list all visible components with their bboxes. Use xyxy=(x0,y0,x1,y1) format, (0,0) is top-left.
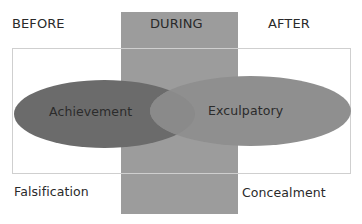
phase-label-during: DURING xyxy=(150,16,203,31)
phase-label-before: BEFORE xyxy=(12,16,65,31)
falsification-label: Falsification xyxy=(14,184,89,199)
exculpatory-label: Exculpatory xyxy=(208,103,283,118)
achievement-label: Achievement xyxy=(49,104,132,119)
concealment-label: Concealment xyxy=(242,185,326,200)
phase-label-after: AFTER xyxy=(268,16,310,31)
